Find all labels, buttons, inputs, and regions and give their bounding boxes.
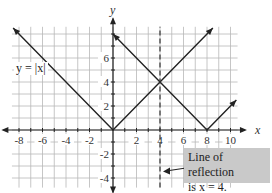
svg-text:2: 2 xyxy=(104,100,110,112)
svg-text:-8: -8 xyxy=(14,134,24,146)
reflection-callout: Line of reflection is x = 4. xyxy=(184,148,270,183)
callout-arrow xyxy=(163,168,186,175)
svg-text:8: 8 xyxy=(204,134,210,146)
svg-text:-4: -4 xyxy=(61,134,71,146)
svg-text:6: 6 xyxy=(181,134,187,146)
svg-text:-4: -4 xyxy=(100,172,110,184)
svg-text:6: 6 xyxy=(104,52,110,64)
callout-line-2: is x = 4. xyxy=(188,180,270,193)
svg-text:10: 10 xyxy=(225,134,237,146)
y-axis-label: y xyxy=(109,3,116,17)
svg-text:4: 4 xyxy=(104,76,110,88)
callout-line-1: Line of reflection xyxy=(188,150,270,180)
svg-text:-2: -2 xyxy=(85,134,94,146)
x-axis-label: x xyxy=(254,123,261,137)
svg-text:-2: -2 xyxy=(100,148,109,160)
svg-text:2: 2 xyxy=(134,134,140,146)
svg-text:-6: -6 xyxy=(38,134,48,146)
equation-label: y = |x| xyxy=(14,62,48,75)
